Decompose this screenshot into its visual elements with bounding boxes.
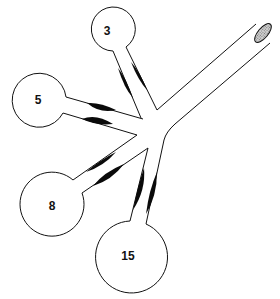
main-airway-trunk xyxy=(157,21,274,140)
branch-3 xyxy=(113,47,157,118)
alveolus-15-label: 15 xyxy=(121,249,135,263)
alveolus-3-label: 3 xyxy=(104,24,111,38)
branch-15 xyxy=(130,140,164,224)
alveolus-8: 8 xyxy=(20,172,84,236)
constriction-3a xyxy=(118,68,133,98)
airway-diagram: 3 5 8 15 xyxy=(0,0,280,299)
constriction-8a xyxy=(86,152,116,172)
alveolus-5: 5 xyxy=(12,73,66,127)
branch-5 xyxy=(63,97,143,135)
constriction-3b xyxy=(131,62,147,90)
constriction-5b xyxy=(82,117,113,125)
constriction-15b xyxy=(146,172,157,214)
alveolus-15: 15 xyxy=(96,221,168,293)
alveolus-5-label: 5 xyxy=(35,93,42,107)
alveolus-8-label: 8 xyxy=(49,199,56,213)
constriction-8b xyxy=(93,164,124,186)
constriction-15a xyxy=(133,168,144,210)
branch-8 xyxy=(73,135,148,193)
constriction-5a xyxy=(87,103,116,111)
alveolus-3: 3 xyxy=(91,7,135,51)
